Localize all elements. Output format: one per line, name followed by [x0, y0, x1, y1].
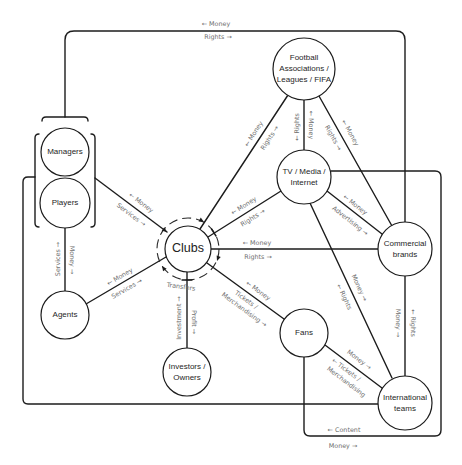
football-economy-diagram: Football Associations / Leagues / FIFA T… [0, 0, 462, 465]
flow-label-profit: Profit → [190, 310, 198, 335]
node-label: International [383, 393, 427, 402]
node-investors-owners: Investors / Owners [163, 348, 211, 396]
node-commercial-brands: Commercial brands [378, 222, 432, 276]
node-label: Football [290, 53, 319, 62]
flow-label-money: Money → [68, 246, 76, 275]
flow-label-rights: ← Rights [409, 309, 417, 337]
flow-label-content: ← Content [328, 426, 361, 434]
node-clubs: Clubs [165, 226, 211, 272]
node-circle [378, 376, 432, 430]
node-managers: Managers [41, 128, 89, 176]
node-label: TV / Media / [282, 167, 326, 176]
node-label: brands [393, 250, 417, 259]
flow-label-money: Money → [394, 309, 402, 338]
node-label: Managers [47, 147, 83, 156]
node-label: Fans [295, 328, 313, 337]
node-circle [277, 150, 331, 204]
flow-label-money: Money → [329, 442, 358, 450]
node-label: Agents [53, 310, 78, 319]
node-fans: Fans [280, 309, 328, 357]
node-label: Internet [290, 178, 318, 187]
flow-label-services: Services → [54, 241, 62, 276]
flow-label-money: ← Money [243, 239, 272, 247]
node-international-teams: International teams [378, 376, 432, 430]
node-players: Players [40, 178, 90, 228]
flow-label-money: ← Money [202, 20, 231, 28]
node-circle [163, 348, 211, 396]
node-label: Associations / [279, 64, 329, 73]
node-label: Commercial [384, 239, 427, 248]
flow-label-investment: Investment → [175, 296, 183, 340]
node-label: Clubs [172, 241, 204, 255]
flow-label-money: ← Money [307, 111, 315, 140]
node-football-associations: Football Associations / Leagues / FIFA [273, 38, 335, 100]
node-label: Owners [173, 373, 201, 382]
node-label: teams [394, 404, 416, 413]
flow-label-rights: Rights → [204, 33, 232, 41]
node-tv-media-internet: TV / Media / Internet [277, 150, 331, 204]
node-label: Players [52, 198, 79, 207]
node-circle [378, 222, 432, 276]
flow-label-rights: Rights → [244, 253, 272, 261]
node-label: Leagues / FIFA [277, 75, 332, 84]
flow-label-rights: ← Rights [293, 113, 301, 141]
node-label: Investors / [169, 362, 207, 371]
node-agents: Agents [41, 291, 89, 339]
